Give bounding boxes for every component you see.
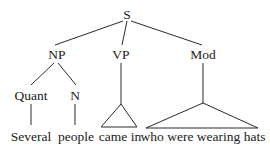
mod-triangle [146, 103, 258, 128]
leaf-several: Several [11, 129, 52, 144]
vp-triangle [101, 104, 137, 127]
syntax-tree: S NP VP Mod Quant N Several people came … [0, 0, 270, 146]
node-mod: Mod [190, 47, 216, 62]
node-vp: VP [112, 47, 129, 62]
edge-s-mod [131, 21, 202, 45]
edge-np-n [58, 63, 76, 85]
node-s: S [123, 7, 131, 22]
edge-s-np [55, 21, 123, 45]
leaf-people: people [58, 129, 94, 144]
edge-np-quant [31, 63, 54, 85]
node-np: NP [48, 47, 65, 62]
leaf-came-in: came in [99, 129, 142, 144]
edge-s-vp [122, 21, 127, 45]
node-quant: Quant [15, 88, 48, 103]
leaf-who-were-wearing-hats: who were wearing hats [141, 129, 266, 144]
node-n: N [70, 88, 80, 103]
